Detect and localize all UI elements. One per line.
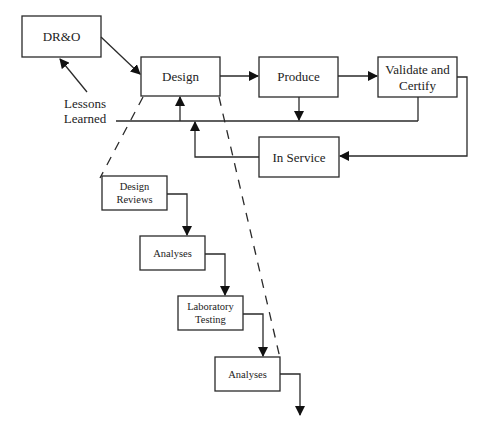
node-design-reviews: Design Reviews — [102, 176, 167, 210]
node-validate-certify: Validate and Certify — [378, 57, 457, 97]
node-validate-label-line1: Validate and — [385, 62, 450, 77]
node-design: Design — [141, 57, 220, 96]
node-in-service: In Service — [259, 137, 339, 177]
node-produce: Produce — [259, 57, 338, 97]
svg-text:Analyses: Analyses — [153, 248, 192, 259]
svg-text:Design: Design — [120, 181, 150, 192]
svg-text:Laboratory: Laboratory — [187, 301, 234, 312]
lessons-learned-label: Lessons Learned — [64, 96, 107, 126]
node-analyses-2: Analyses — [215, 357, 280, 391]
svg-text:Testing: Testing — [195, 314, 227, 325]
node-produce-label: Produce — [277, 69, 320, 84]
node-dro: DR&O — [22, 16, 101, 57]
design-process-diagram: DR&O Design Produce Validate and Certify… — [0, 0, 487, 434]
node-dro-label: DR&O — [43, 29, 81, 44]
svg-text:Analyses: Analyses — [228, 369, 267, 380]
svg-text:Learned: Learned — [64, 111, 107, 126]
node-in-service-label: In Service — [272, 150, 325, 165]
node-design-label: Design — [162, 69, 199, 84]
node-validate-label-line2: Certify — [399, 78, 436, 93]
svg-text:Lessons: Lessons — [64, 96, 106, 111]
node-laboratory-testing: Laboratory Testing — [178, 296, 243, 330]
node-analyses-1: Analyses — [140, 236, 205, 270]
svg-text:Reviews: Reviews — [116, 194, 152, 205]
